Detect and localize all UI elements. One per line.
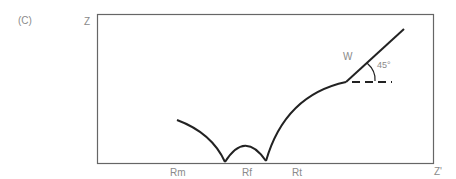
- angle-arc: [367, 63, 375, 81]
- arc-rt: [266, 82, 346, 161]
- arc-rm: [177, 120, 225, 162]
- nyquist-diagram: [0, 0, 456, 179]
- arc-rf: [225, 146, 266, 162]
- plot-frame: [98, 15, 434, 164]
